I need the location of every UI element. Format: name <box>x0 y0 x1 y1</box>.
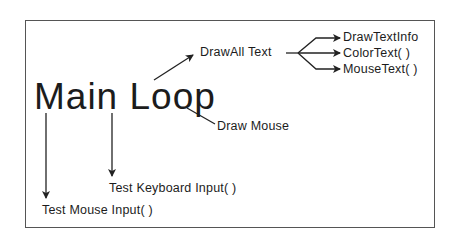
arrow-to-mousetext <box>298 53 340 69</box>
node-colortext: ColorText( ) <box>343 46 410 60</box>
node-mousetext: MouseText( ) <box>343 62 418 76</box>
node-drawtextinfo: DrawTextInfo <box>343 30 418 44</box>
node-test-mouse-input: Test Mouse Input( ) <box>42 203 153 217</box>
arrow-to-drawtextinfo <box>298 38 340 53</box>
node-drawall-text: DrawAll Text <box>200 45 272 59</box>
node-draw-mouse: Draw Mouse <box>217 119 289 133</box>
node-test-keyboard-input: Test Keyboard Input( ) <box>109 181 236 195</box>
node-main-loop: Main Loop <box>34 76 216 118</box>
